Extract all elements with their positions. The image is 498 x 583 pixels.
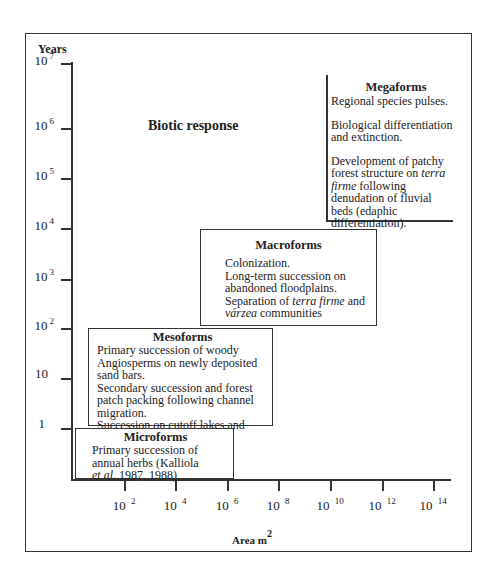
mesoforms-title: Mesoforms — [97, 330, 268, 344]
x-tick-label: 10 14 — [408, 496, 458, 514]
y-tick-mark — [61, 178, 72, 180]
x-tick-label: 10 10 — [305, 496, 355, 514]
y-tick-label: 10 — [8, 366, 48, 382]
x-tick-mark — [382, 480, 384, 491]
x-axis-label: Area m2 — [232, 528, 272, 546]
x-tick-label: 10 2 — [99, 496, 149, 514]
y-tick-label: 1 — [5, 416, 45, 432]
x-tick-mark — [433, 480, 435, 491]
megaforms-text-2: Biological differentiation and extinctio… — [331, 119, 453, 144]
mesoforms-text-3: sand bars. — [97, 369, 268, 382]
microforms-title: Microforms — [92, 430, 229, 444]
megaforms-text-3: Development of patchy forest structure o… — [331, 155, 453, 230]
y-tick-label: 104 — [14, 216, 54, 234]
macroforms-box: Macroforms Colonization. Long-term succe… — [200, 229, 377, 326]
y-tick-label: 102 — [14, 316, 54, 334]
y-tick-label: 107 — [14, 51, 54, 69]
megaforms-region: Megaforms Regional species pulses. Biolo… — [331, 80, 453, 230]
y-tick-label: 106 — [14, 116, 54, 134]
y-tick-mark — [61, 428, 72, 430]
megaforms-title: Megaforms — [331, 80, 453, 94]
y-tick-mark — [61, 328, 72, 330]
y-tick-label: 103 — [14, 267, 54, 285]
y-tick-mark — [61, 228, 72, 230]
x-tick-mark — [330, 480, 332, 491]
x-tick-mark — [278, 480, 280, 491]
macroforms-text-1: Colonization. — [225, 257, 366, 270]
microforms-box: Microforms Primary succession of annual … — [75, 428, 234, 479]
microforms-text-3: et al. 1987, 1988) — [92, 469, 229, 482]
y-tick-mark — [61, 279, 72, 281]
x-tick-label: 10 6 — [202, 496, 252, 514]
y-tick-mark — [61, 63, 72, 65]
macroforms-text-5: várzea communities — [225, 307, 366, 320]
mesoforms-text-5: patch packing following channel — [97, 394, 268, 407]
megaforms-left-border — [326, 75, 328, 222]
x-tick-label: 10 4 — [150, 496, 200, 514]
x-tick-label: 10 8 — [253, 496, 303, 514]
y-tick-label: 105 — [14, 166, 54, 184]
macroforms-title: Macroforms — [225, 238, 366, 252]
y-axis-line — [71, 62, 73, 481]
mesoforms-box: Mesoforms Primary succession of woody An… — [88, 328, 273, 426]
y-tick-mark — [61, 128, 72, 130]
x-tick-mark — [227, 480, 229, 491]
mesoforms-text-1: Primary succession of woody — [97, 344, 268, 357]
diagram-title: Biotic response — [148, 118, 238, 134]
x-tick-label: 10 12 — [357, 496, 407, 514]
megaforms-text-1: Regional species pulses. — [331, 95, 453, 108]
y-tick-mark — [61, 378, 72, 380]
microforms-text-1: Primary succession of — [92, 444, 229, 457]
